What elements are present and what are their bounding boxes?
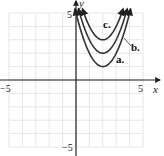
curve-label-c: c. xyxy=(103,18,111,30)
axes xyxy=(0,1,160,156)
x-min-tick-label: −5 xyxy=(0,83,11,94)
y-min-tick-label: −5 xyxy=(62,142,73,153)
x-max-tick-label: 5 xyxy=(138,83,143,94)
curve-label-a: a. xyxy=(116,53,125,65)
graph: −5 5 x 5 −5 y c. b. a. xyxy=(0,0,164,156)
y-axis-label: y xyxy=(78,0,84,9)
y-max-tick-label: 5 xyxy=(67,9,72,20)
curve-label-b: b. xyxy=(131,41,140,53)
x-axis-label: x xyxy=(152,83,158,95)
